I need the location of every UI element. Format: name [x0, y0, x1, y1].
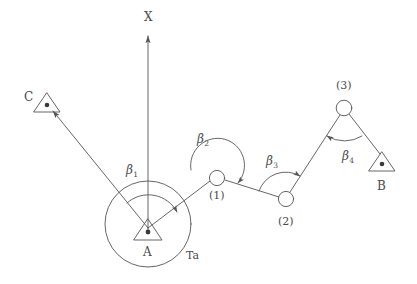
node-a-dot [146, 230, 151, 235]
node-c-label: C [24, 91, 33, 103]
link-j2-j3 [290, 115, 340, 192]
node-c-triangle [34, 93, 60, 112]
beta3-label: β3 [266, 155, 278, 167]
node-b-triangle [369, 152, 395, 171]
beta4-label: β4 [342, 150, 354, 162]
node-b-label: B [377, 180, 386, 192]
kinematic-chain-diagram: X A C B (1) (2) (3) Ta β1 β2 β3 β4 [0, 0, 417, 284]
node-b-dot [380, 162, 385, 167]
beta2-label: β2 [197, 133, 209, 145]
node-a-label: A [143, 246, 152, 258]
beta4-symbol: β [342, 149, 349, 163]
beta4-arc [327, 136, 362, 141]
beta2-symbol: β [197, 132, 204, 146]
beta1-label: β1 [126, 164, 138, 176]
beta3-arc [259, 172, 300, 191]
beta4-subscript: 4 [349, 156, 354, 165]
beta3-symbol: β [266, 154, 273, 168]
link-j1-j2 [225, 180, 279, 197]
beta1-symbol: β [126, 163, 133, 177]
node-j3-circle [336, 100, 352, 116]
beta1-subscript: 1 [133, 170, 138, 179]
link-a-j1 [148, 181, 210, 228]
node-j1-label: (1) [209, 190, 225, 201]
beta2-subscript: 2 [204, 139, 209, 148]
node-j2-circle [278, 191, 293, 206]
x-axis-label: X [144, 11, 153, 23]
node-j1-circle [209, 170, 224, 185]
beta3-subscript: 3 [273, 161, 278, 170]
ta-label: Ta [186, 250, 199, 261]
node-c-dot [45, 103, 50, 108]
beta1-arc [127, 195, 177, 212]
link-j3-b [349, 114, 380, 154]
node-j2-label: (2) [278, 216, 294, 227]
node-j3-label: (3) [336, 80, 352, 91]
